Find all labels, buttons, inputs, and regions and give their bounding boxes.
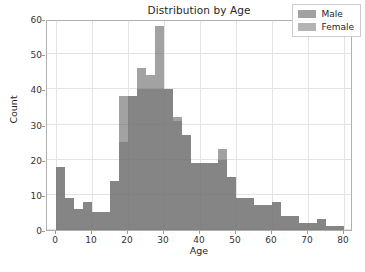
y-tick-label: 60	[6, 15, 42, 25]
histogram-bar	[173, 117, 182, 230]
histogram-bar	[128, 96, 137, 230]
histogram-bar	[92, 212, 101, 230]
chart-legend: Male Female	[292, 4, 361, 37]
y-tick-mark	[42, 126, 45, 127]
y-tick-mark	[42, 55, 45, 56]
histogram-bar	[281, 216, 290, 230]
histogram-bar	[74, 209, 83, 230]
histogram-bar	[146, 75, 155, 230]
histogram-bar	[155, 26, 164, 230]
y-tick-mark	[42, 231, 45, 232]
y-tick-label: 50	[6, 50, 42, 60]
x-tick-mark	[199, 231, 200, 234]
histogram-bar	[191, 163, 200, 230]
histogram-bar	[209, 163, 218, 230]
histogram-bar	[110, 181, 119, 230]
y-tick-mark	[42, 161, 45, 162]
y-tick-mark	[42, 20, 45, 21]
gridline-vertical	[344, 21, 345, 230]
histogram-bar	[227, 177, 236, 230]
histogram-bar	[254, 205, 263, 230]
y-tick-label: 20	[6, 156, 42, 166]
y-tick-mark	[42, 90, 45, 91]
x-tick-mark	[343, 231, 344, 234]
x-tick-mark	[127, 231, 128, 234]
histogram-bar	[56, 167, 65, 230]
x-tick-mark	[235, 231, 236, 234]
histogram-bar	[272, 202, 281, 230]
x-tick-label: 0	[40, 235, 70, 245]
y-axis-ticks: 0102030405060	[0, 20, 42, 231]
x-tick-mark	[55, 231, 56, 234]
histogram-bar	[308, 223, 317, 230]
histogram-bar	[245, 198, 254, 230]
x-tick-label: 10	[76, 235, 106, 245]
y-tick-mark	[42, 196, 45, 197]
histogram-bar	[218, 149, 227, 230]
histogram-bar	[137, 68, 146, 230]
histogram-bar	[200, 163, 209, 230]
x-tick-mark	[307, 231, 308, 234]
histogram-bar	[101, 212, 110, 230]
x-tick-mark	[91, 231, 92, 234]
histogram-bar	[299, 223, 308, 230]
x-axis-label: Age	[46, 245, 352, 256]
plot-area	[46, 20, 352, 231]
gridline-vertical	[272, 21, 273, 230]
x-tick-label: 60	[256, 235, 286, 245]
histogram-bar	[164, 89, 173, 230]
x-tick-label: 20	[112, 235, 142, 245]
histogram-bar	[182, 135, 191, 230]
histogram-bar	[65, 198, 74, 230]
histogram-bar	[263, 205, 272, 230]
gridline-vertical	[308, 21, 309, 230]
legend-item-female: Female	[298, 22, 354, 32]
histogram-bar	[326, 226, 335, 230]
gridline-vertical	[92, 21, 93, 230]
legend-swatch-male-icon	[298, 10, 316, 18]
legend-swatch-female-icon	[298, 23, 316, 31]
y-tick-label: 10	[6, 191, 42, 201]
x-tick-label: 70	[292, 235, 322, 245]
legend-item-male: Male	[298, 9, 354, 19]
y-axis-label: Count	[8, 75, 19, 145]
histogram-bar	[290, 216, 299, 230]
x-tick-label: 80	[328, 235, 358, 245]
x-tick-label: 50	[220, 235, 250, 245]
histogram-bar	[83, 202, 92, 230]
x-tick-mark	[271, 231, 272, 234]
chart-figure: Distribution by Age 0102030405060 010203…	[0, 0, 365, 272]
x-tick-label: 40	[184, 235, 214, 245]
legend-label-male: Male	[321, 9, 342, 19]
histogram-bar	[236, 198, 245, 230]
legend-label-female: Female	[321, 22, 354, 32]
y-tick-label: 0	[6, 226, 42, 236]
histogram-bar	[335, 226, 344, 230]
x-tick-mark	[163, 231, 164, 234]
histogram-bar	[119, 96, 128, 230]
x-tick-label: 30	[148, 235, 178, 245]
histogram-bar	[317, 219, 326, 230]
